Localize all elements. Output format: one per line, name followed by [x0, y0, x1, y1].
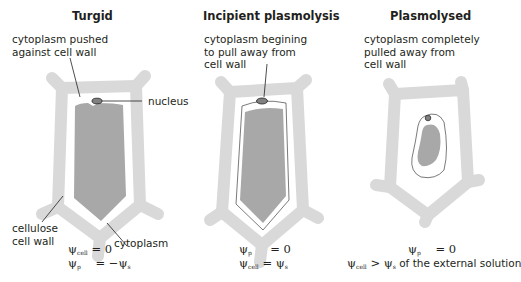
incipient-title: Incipient plasmolysis	[203, 9, 340, 23]
turgid-nucleus	[92, 98, 102, 104]
plasmolysed-title: Plasmolysed	[390, 9, 471, 23]
turgid-cytoplasm-label: cytoplasm	[114, 237, 168, 250]
incipient-equation-2: ψcell = ψs	[239, 257, 288, 273]
plasmolysed-cell	[376, 82, 479, 222]
incipient-annotation-top: cytoplasm begining to pull away from cel…	[204, 33, 307, 71]
turgid-annotation-top: cytoplasm pushed against cell wall	[12, 33, 108, 58]
turgid-equation-2: ψp = −ψs	[68, 257, 131, 273]
turgid-cell	[42, 58, 158, 256]
incipient-cell	[210, 64, 318, 262]
turgid-cell-wall-label: cellulose cell wall	[12, 222, 58, 247]
incipient-nucleus	[257, 98, 268, 104]
turgid-cytoplasm	[74, 103, 126, 221]
turgid-title: Turgid	[72, 9, 113, 23]
plasmolysed-annotation-top: cytoplasm completely pulled away from ce…	[364, 33, 480, 71]
turgid-nucleus-label: nucleus	[148, 95, 189, 108]
plasmolysed-equation-2: ψcell > ψs of the external solution	[347, 257, 521, 273]
plasmolysed-nucleus	[425, 115, 431, 121]
